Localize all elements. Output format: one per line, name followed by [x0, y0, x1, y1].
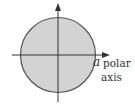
up-arrow-icon	[55, 3, 61, 11]
radius-label: a	[93, 55, 100, 69]
polar-diagram: a polar axis	[0, 0, 135, 106]
polar-axis-label-line2: axis	[101, 71, 122, 83]
diagram-canvas	[0, 0, 135, 106]
polar-axis-label-line1: polar	[103, 57, 131, 69]
